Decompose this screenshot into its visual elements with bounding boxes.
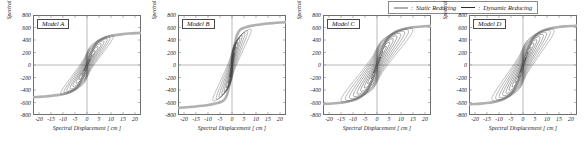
y-tick-label: 600 [439, 25, 467, 31]
x-tick-label: 10 [398, 116, 404, 122]
y-tick-label: -800 [293, 112, 321, 118]
y-tick-label: 400 [293, 37, 321, 43]
plot-canvas [178, 15, 286, 115]
y-tick-label: -200 [439, 75, 467, 81]
chart-panel-model-d: Spectral Acceleration [ cm/sec2 ]8006004… [438, 15, 583, 142]
y-tick-label: 200 [3, 50, 31, 56]
x-tick-label: 5 [534, 116, 537, 122]
y-tick-label: 600 [293, 25, 321, 31]
x-tick-label: -10 [495, 116, 503, 122]
plot-canvas [33, 15, 141, 115]
x-tick-label: 10 [544, 116, 550, 122]
legend-line-swatch-icon [461, 7, 475, 8]
y-tick-label: -600 [439, 100, 467, 106]
y-tick-label: 400 [439, 37, 467, 43]
x-tick-label: 20 [132, 116, 138, 122]
y-tick-labels: 8006004002000-200-400-600-800 [147, 15, 176, 115]
x-tick-label: -20 [180, 116, 188, 122]
x-tick-label: 0 [231, 116, 234, 122]
x-tick-label: 0 [522, 116, 525, 122]
plot-area: Model A [33, 15, 141, 115]
x-tick-label: -5 [218, 116, 223, 122]
x-tick-label: -10 [204, 116, 212, 122]
legend-label: Static Reducing [416, 4, 456, 11]
x-tick-label: 5 [388, 116, 391, 122]
x-tick-label: 15 [120, 116, 126, 122]
legend-label: Dynamic Reducing [483, 4, 532, 11]
x-tick-label: 10 [108, 116, 114, 122]
x-axis-label: Spectral Displacement [ cm ] [33, 125, 141, 131]
x-tick-label: -20 [325, 116, 333, 122]
legend-separator: : [411, 5, 413, 11]
y-tick-label: -800 [3, 112, 31, 118]
x-tick-label: -10 [349, 116, 357, 122]
x-tick-label: -5 [509, 116, 514, 122]
x-tick-label: 5 [98, 116, 101, 122]
y-tick-label: -600 [148, 100, 176, 106]
x-tick-label: -5 [363, 116, 368, 122]
model-label-d: Model D [473, 19, 506, 29]
x-tick-label: 15 [410, 116, 416, 122]
y-tick-label: 600 [148, 25, 176, 31]
x-tick-label: -15 [47, 116, 55, 122]
y-tick-label: 200 [439, 50, 467, 56]
y-tick-labels: 8006004002000-200-400-600-800 [292, 15, 321, 115]
y-tick-label: -400 [293, 87, 321, 93]
y-tick-label: -400 [3, 87, 31, 93]
y-tick-label: 400 [3, 37, 31, 43]
x-axis-label: Spectral Displacement [ cm ] [469, 125, 577, 131]
model-label-c: Model C [327, 19, 360, 29]
x-tick-label: -5 [73, 116, 78, 122]
x-tick-label: -10 [59, 116, 67, 122]
y-tick-label: -200 [148, 75, 176, 81]
y-tick-label: -200 [293, 75, 321, 81]
y-tick-label: 800 [293, 12, 321, 18]
y-tick-label: -400 [148, 87, 176, 93]
y-tick-label: 800 [439, 12, 467, 18]
x-tick-label: -20 [471, 116, 479, 122]
y-tick-label: 800 [148, 12, 176, 18]
y-tick-label: 0 [148, 62, 176, 68]
y-tick-label: -800 [148, 112, 176, 118]
x-axis-label: Spectral Displacement [ cm ] [323, 125, 431, 131]
x-tick-label: 20 [277, 116, 283, 122]
x-tick-label: 15 [556, 116, 562, 122]
y-tick-label: 200 [293, 50, 321, 56]
model-label-b: Model B [182, 19, 215, 29]
x-tick-label: 0 [86, 116, 89, 122]
y-tick-label: -600 [3, 100, 31, 106]
chart-panel-model-b: Spectral Acceleration [ cm/sec2 ]8006004… [147, 15, 292, 142]
y-tick-label: 200 [148, 50, 176, 56]
y-tick-label: 400 [148, 37, 176, 43]
legend-line-swatch-icon [394, 7, 408, 9]
x-tick-label: 10 [253, 116, 259, 122]
plot-area: Model D [469, 15, 577, 115]
x-tick-label: -15 [483, 116, 491, 122]
plot-area: Model B [178, 15, 286, 115]
x-tick-label: 0 [376, 116, 379, 122]
y-tick-label: 0 [3, 62, 31, 68]
y-tick-label: 600 [3, 25, 31, 31]
plot-canvas [469, 15, 577, 115]
plot-area: Model C [323, 15, 431, 115]
x-tick-label: 5 [243, 116, 246, 122]
chart-panel-model-a: Spectral Acceleration [ cm/sec2 ]8006004… [2, 15, 147, 142]
x-tick-label: 20 [422, 116, 428, 122]
legend-item-dynamic-reducing: :Dynamic Reducing [461, 4, 532, 11]
y-tick-label: -800 [439, 112, 467, 118]
y-tick-label: 800 [3, 12, 31, 18]
x-tick-label: 15 [265, 116, 271, 122]
x-axis-label: Spectral Displacement [ cm ] [178, 125, 286, 131]
y-tick-label: -400 [439, 87, 467, 93]
y-tick-label: 0 [293, 62, 321, 68]
x-tick-label: -15 [192, 116, 200, 122]
legend-separator: : [478, 5, 480, 11]
y-tick-label: -600 [293, 100, 321, 106]
plot-canvas [323, 15, 431, 115]
model-label-a: Model A [37, 19, 69, 29]
hysteresis-figure: :Static Reducing:Dynamic Reducing Spectr… [0, 0, 585, 142]
y-tick-labels: 8006004002000-200-400-600-800 [2, 15, 31, 115]
y-tick-label: 0 [439, 62, 467, 68]
x-tick-label: -20 [35, 116, 43, 122]
chart-panel-model-c: Spectral Acceleration [ cm/sec2 ]8006004… [292, 15, 437, 142]
